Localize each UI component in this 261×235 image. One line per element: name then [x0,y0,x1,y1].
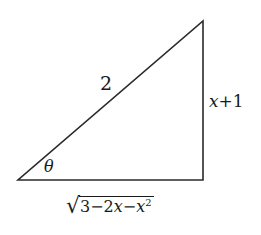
radicand-constant: 3−2 [80,197,114,216]
radicand-var-1: x [114,197,123,216]
radicand-exponent: 2 [145,197,151,208]
radicand-var-2: x [136,197,145,216]
hypotenuse-label: 2 [100,74,112,93]
angle-theta-label: θ [44,159,54,175]
adjacent-side-label: √ 3−2x−x2 [66,193,154,215]
radicand-expression: 3−2x−x2 [79,196,154,215]
triangle-diagram: 2 x+1 θ √ 3−2x−x2 [0,0,261,235]
opposite-constant: +1 [219,91,244,111]
radicand-minus: − [123,197,136,216]
opposite-variable: x [209,91,219,111]
square-root-icon: √ [66,195,80,217]
opposite-side-label: x+1 [209,93,244,110]
